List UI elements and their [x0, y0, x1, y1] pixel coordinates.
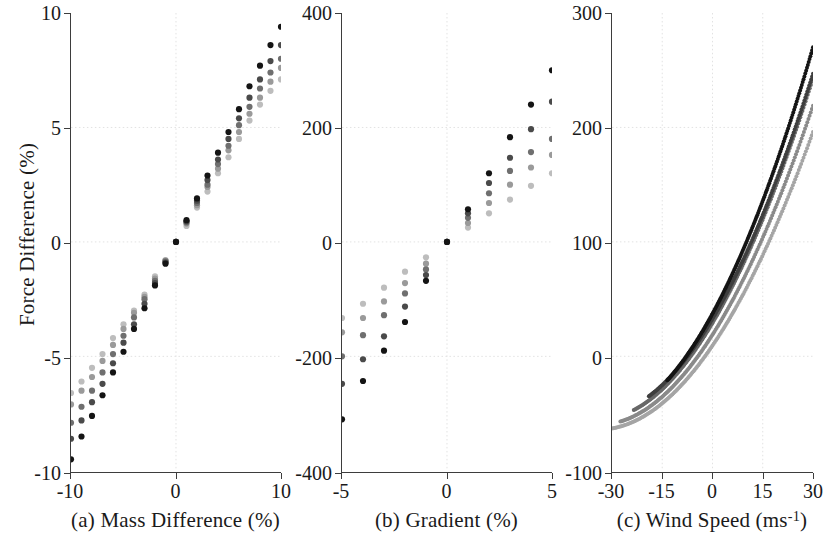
x-tick-label: -10 [57, 481, 84, 501]
y-tick-mark [64, 358, 70, 359]
panel-c-caption: (c) Wind Speed (ms-1) [601, 508, 823, 533]
panel-a-plot-area [71, 13, 281, 471]
y-tick-label: -400 [295, 463, 332, 483]
x-tick-mark [611, 473, 612, 479]
panel-b: -400-2000200400-505 [341, 13, 552, 473]
y-tick-mark [335, 243, 341, 244]
y-tick-label: 300 [572, 3, 602, 23]
x-tick-mark [176, 473, 177, 479]
y-tick-label: 5 [51, 118, 61, 138]
y-tick-label: 0 [322, 233, 332, 253]
x-tick-mark [813, 473, 814, 479]
y-tick-label: 0 [592, 348, 602, 368]
x-tick-label: 15 [753, 481, 773, 501]
panel-c-caption-exponent: -1 [788, 508, 800, 524]
panel-c-frame [611, 13, 813, 473]
y-axis-label: Force Difference (%) [15, 105, 40, 365]
panel-b-caption: (b) Gradient (%) [341, 508, 552, 533]
x-tick-mark [70, 473, 71, 479]
y-tick-label: -200 [295, 348, 332, 368]
y-tick-label: 200 [572, 118, 602, 138]
x-tick-label: 0 [442, 481, 452, 501]
panel-a: -10-50510-10010 [70, 13, 281, 473]
panel-b-frame [341, 13, 552, 473]
x-tick-mark [763, 473, 764, 479]
y-tick-mark [64, 243, 70, 244]
x-tick-label: 0 [171, 481, 181, 501]
panel-c-caption-tail: ) [800, 508, 807, 532]
y-tick-label: 100 [572, 233, 602, 253]
x-tick-label: 5 [547, 481, 557, 501]
y-tick-label: 200 [302, 118, 332, 138]
y-tick-label: 10 [41, 3, 61, 23]
x-tick-label: 0 [707, 481, 717, 501]
y-tick-mark [335, 128, 341, 129]
panel-a-frame [70, 13, 281, 473]
x-tick-mark [662, 473, 663, 479]
figure-root: Force Difference (%) -10-50510-10010 -40… [0, 0, 824, 540]
y-tick-mark [335, 358, 341, 359]
y-tick-mark [605, 243, 611, 244]
y-tick-mark [605, 358, 611, 359]
y-tick-mark [64, 13, 70, 14]
y-tick-mark [605, 128, 611, 129]
y-tick-label: 400 [302, 3, 332, 23]
panel-c-caption-text: (c) Wind Speed (ms [617, 508, 788, 532]
x-tick-label: 10 [271, 481, 291, 501]
x-tick-label: -15 [648, 481, 675, 501]
y-tick-label: -100 [565, 463, 602, 483]
x-tick-label: -5 [333, 481, 350, 501]
x-tick-label: -30 [598, 481, 625, 501]
panel-a-caption: (a) Mass Difference (%) [70, 508, 281, 533]
x-tick-mark [281, 473, 282, 479]
x-tick-mark [552, 473, 553, 479]
y-tick-label: -5 [44, 348, 61, 368]
x-tick-label: 30 [803, 481, 823, 501]
panel-c: -1000100200300-30-1501530 [611, 13, 813, 473]
panel-b-plot-area [342, 13, 552, 471]
x-tick-mark [341, 473, 342, 479]
x-tick-mark [447, 473, 448, 479]
panel-c-plot-area [612, 13, 813, 471]
y-tick-mark [335, 13, 341, 14]
x-tick-mark [712, 473, 713, 479]
y-tick-mark [64, 128, 70, 129]
y-tick-mark [605, 13, 611, 14]
y-tick-label: 0 [51, 233, 61, 253]
